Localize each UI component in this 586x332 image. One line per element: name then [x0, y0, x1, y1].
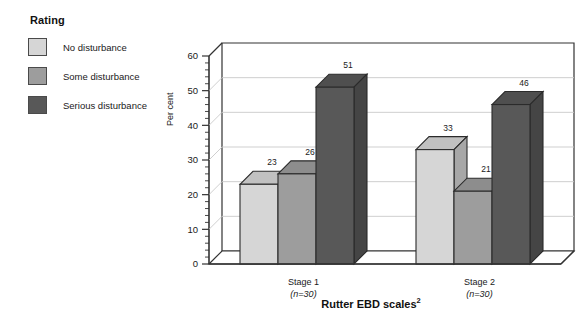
bar-front-face: [492, 105, 530, 264]
x-category-sublabel: (n=30): [435, 288, 525, 300]
bar-value-label: 21: [471, 164, 501, 174]
plot-area: Per cent 0102030405060 Rutter EBD scales…: [165, 8, 577, 308]
y-tick-label: 20: [187, 189, 198, 200]
legend-swatch-icon: [28, 38, 47, 56]
y-tick-label: 10: [187, 224, 198, 235]
x-category-label: Stage 1(n=30): [259, 276, 349, 300]
y-tick-label: 40: [187, 120, 198, 131]
y-tick-label: 30: [187, 154, 198, 165]
bar-front-face: [454, 191, 492, 264]
legend-swatch-icon: [28, 96, 47, 114]
chart-figure: Rating No disturbance Some disturbance S…: [0, 0, 586, 332]
bar-side-face: [530, 92, 543, 264]
legend-item-serious-disturbance: Serious disturbance: [28, 96, 178, 114]
x-category-sublabel: (n=30): [259, 288, 349, 300]
bar-value-label: 46: [509, 78, 539, 88]
x-category-name: Stage 1: [259, 276, 349, 288]
bar-front-face: [240, 184, 278, 264]
legend-swatch-icon: [28, 67, 47, 85]
legend-item-no-disturbance: No disturbance: [28, 38, 178, 56]
bar-value-label: 33: [433, 123, 463, 133]
y-tick-label: 50: [187, 85, 198, 96]
bar-value-label: 26: [295, 147, 325, 157]
legend-title: Rating: [30, 14, 178, 26]
bar-value-label: 23: [257, 157, 287, 167]
bar-front-face: [416, 150, 454, 264]
x-category-name: Stage 2: [435, 276, 525, 288]
bar-chart-svg: 0102030405060: [165, 8, 577, 308]
y-tick-label: 60: [187, 50, 198, 61]
y-tick-label: 0: [193, 258, 198, 269]
bar-front-face: [278, 174, 316, 264]
legend-item-label: No disturbance: [63, 42, 127, 53]
legend-item-some-disturbance: Some disturbance: [28, 67, 178, 85]
legend-item-label: Some disturbance: [63, 71, 140, 82]
x-category-label: Stage 2(n=30): [435, 276, 525, 300]
legend: Rating No disturbance Some disturbance S…: [28, 14, 178, 125]
bar-side-face: [354, 74, 367, 264]
legend-item-label: Serious disturbance: [63, 100, 147, 111]
bar-front-face: [316, 87, 354, 264]
bar-value-label: 51: [333, 60, 363, 70]
